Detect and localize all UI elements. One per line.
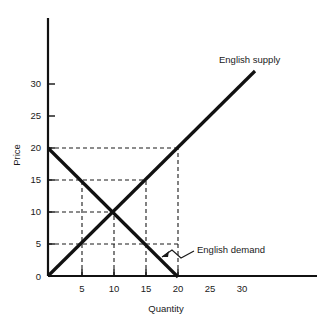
y-tick-label-30: 30: [30, 78, 41, 89]
y-tick-labels: 30 25 20 15 10 5 0: [30, 78, 41, 282]
x-tick-label-10: 10: [109, 283, 120, 294]
y-axis-title: Price: [11, 144, 22, 166]
y-tick-label-10: 10: [30, 206, 41, 217]
y-tick-label-25: 25: [30, 110, 41, 121]
demand-curve-label: English demand: [197, 244, 265, 255]
x-axis-title: Quantity: [148, 303, 184, 314]
y-tick-label-15: 15: [30, 174, 41, 185]
x-tick-label-5: 5: [79, 283, 84, 294]
x-tick-label-25: 25: [205, 283, 216, 294]
x-tick-label-15: 15: [141, 283, 152, 294]
x-tick-label-30: 30: [237, 283, 248, 294]
demand-arrow-head: [162, 251, 169, 257]
y-tick-label-5: 5: [36, 238, 41, 249]
y-tick-label-20: 20: [30, 142, 41, 153]
supply-curve-label: English supply: [219, 54, 281, 65]
chart-canvas: 30 25 20 15 10 5 0 5 10 15 20 25 30 Quan…: [0, 0, 319, 325]
x-tick-label-20: 20: [173, 283, 184, 294]
supply-demand-chart: 30 25 20 15 10 5 0 5 10 15 20 25 30 Quan…: [0, 0, 319, 325]
y-tick-label-0: 0: [36, 271, 41, 282]
x-tick-labels: 5 10 15 20 25 30: [79, 283, 247, 294]
